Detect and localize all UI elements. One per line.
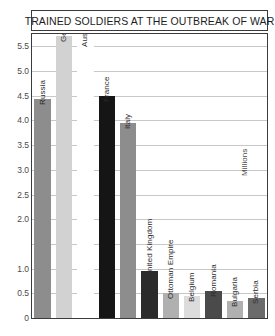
- bar-category-label: Russia: [38, 80, 47, 105]
- bar-category-label: Belgium: [187, 272, 196, 302]
- y-axis-tick-label: 2.5: [3, 190, 29, 200]
- bar-category-label: Romania: [209, 264, 218, 297]
- bar-category-label: Austria-Hungary: [80, 33, 89, 47]
- y-axis-tick-labels: 5.55.04.54.03.53.02.52.01.00.50: [0, 33, 29, 319]
- bar: [99, 96, 116, 318]
- y-axis-tick-label: 1.0: [3, 264, 29, 274]
- plot-area: RussiaGermanyAustria-HungaryFranceItalyU…: [31, 33, 268, 319]
- bar-category-label: Bulgaria: [230, 277, 239, 307]
- y-axis-tick-label: 2.0: [3, 214, 29, 224]
- y-axis-unit-label: Millions: [240, 149, 249, 176]
- y-axis-tick-label: 3.0: [3, 165, 29, 175]
- bar-category-label: France: [102, 76, 111, 102]
- y-axis-tick-label: 4.0: [3, 115, 29, 125]
- bar-category-label: Italy: [123, 114, 132, 129]
- y-axis-tick-label: 0: [3, 313, 29, 323]
- bar: [34, 99, 51, 318]
- bar: [77, 41, 94, 318]
- chart-title: TRAINED SOLDIERS AT THE OUTBREAK OF WAR: [25, 15, 275, 27]
- y-axis-tick-label: 4.5: [3, 91, 29, 101]
- y-axis-tick-label: 5.0: [3, 66, 29, 76]
- bar-category-label: United Kingdom: [145, 219, 154, 277]
- y-axis-tick-label: 0.5: [3, 288, 29, 298]
- y-axis-tick-label: 5.5: [3, 41, 29, 51]
- bar: [141, 271, 158, 318]
- chart-figure: TRAINED SOLDIERS AT THE OUTBREAK OF WAR …: [0, 0, 275, 336]
- chart-title-box: TRAINED SOLDIERS AT THE OUTBREAK OF WAR: [31, 10, 268, 31]
- bar: [120, 123, 137, 318]
- y-axis-tick-label: 3.5: [3, 140, 29, 150]
- bar-category-label: Germany: [59, 33, 68, 42]
- bar-category-label: Ottoman Empire: [166, 240, 175, 300]
- bar: [56, 36, 73, 318]
- bar-category-label: Serbia: [251, 281, 260, 305]
- plot-inner: RussiaGermanyAustria-HungaryFranceItalyU…: [32, 34, 267, 318]
